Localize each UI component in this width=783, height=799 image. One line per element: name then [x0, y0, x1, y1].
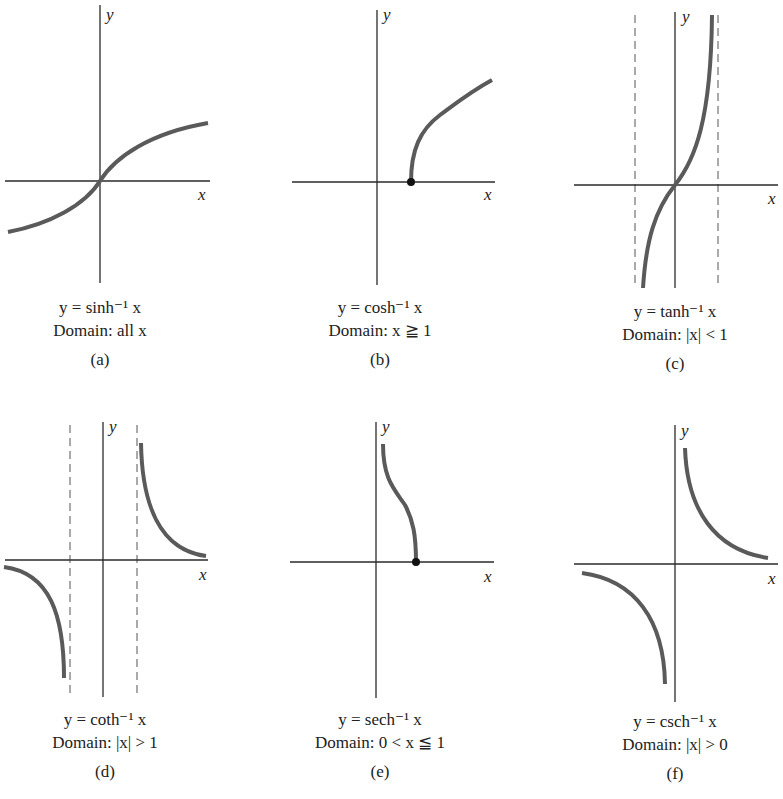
caption-c: y = tanh⁻¹ x Domain: |x| < 1 (c) — [570, 300, 780, 375]
panel-tag: (b) — [270, 348, 490, 371]
panel-tag: (d) — [0, 760, 210, 783]
equation: y = coth⁻¹ x — [0, 708, 210, 731]
panel-c-tanh-inverse: y x y = tanh⁻¹ x Domain: |x| < 1 (c) — [540, 0, 783, 390]
y-axis-label: y — [381, 5, 391, 24]
curve-cosh-inverse — [411, 80, 492, 182]
domain: Domain: 0 < x ≦ 1 — [270, 731, 490, 754]
panel-b-cosh-inverse: y x y = cosh⁻¹ x Domain: x ≧ 1 (b) — [270, 0, 520, 380]
x-axis-label: x — [483, 567, 492, 586]
equation: y = csch⁻¹ x — [570, 710, 780, 733]
x-axis-label: x — [483, 185, 492, 204]
panel-e-sech-inverse: y x y = sech⁻¹ x Domain: 0 < x ≦ 1 (e) — [270, 410, 520, 799]
panel-tag: (f) — [570, 762, 780, 785]
y-axis-label: y — [680, 7, 690, 26]
curve-sech-inverse — [383, 444, 416, 562]
curve-csch-inverse-left — [582, 573, 665, 684]
caption-d: y = coth⁻¹ x Domain: |x| > 1 (d) — [0, 708, 210, 783]
domain: Domain: |x| > 0 — [570, 733, 780, 756]
x-axis-label: x — [198, 565, 207, 584]
x-axis-label: x — [197, 185, 206, 204]
graph-sinh-inverse: y x — [0, 0, 260, 300]
graph-tanh-inverse: y x — [540, 0, 783, 300]
caption-f: y = csch⁻¹ x Domain: |x| > 0 (f) — [570, 710, 780, 785]
y-axis-label: y — [679, 421, 689, 440]
domain: Domain: all x — [0, 319, 200, 342]
x-axis-label: x — [767, 189, 776, 208]
caption-b: y = cosh⁻¹ x Domain: x ≧ 1 (b) — [270, 296, 490, 371]
panel-a-sinh-inverse: y x y = sinh⁻¹ x Domain: all x (a) — [0, 0, 260, 380]
graph-sech-inverse: y x — [270, 410, 520, 710]
graph-coth-inverse: y x — [0, 410, 260, 710]
caption-a: y = sinh⁻¹ x Domain: all x (a) — [0, 296, 200, 371]
equation: y = sinh⁻¹ x — [0, 296, 200, 319]
curve-coth-inverse-left — [4, 567, 64, 678]
equation: y = tanh⁻¹ x — [570, 300, 780, 323]
curve-tanh-inverse — [643, 15, 712, 288]
panel-d-coth-inverse: y x y = coth⁻¹ x Domain: |x| > 1 (d) — [0, 410, 260, 799]
endpoint-marker — [407, 178, 415, 186]
graph-cosh-inverse: y x — [270, 0, 520, 300]
equation: y = cosh⁻¹ x — [270, 296, 490, 319]
graph-csch-inverse: y x — [540, 410, 783, 710]
x-axis-label: x — [767, 569, 776, 588]
domain: Domain: |x| < 1 — [570, 323, 780, 346]
panel-tag: (c) — [570, 352, 780, 375]
caption-e: y = sech⁻¹ x Domain: 0 < x ≦ 1 (e) — [270, 708, 490, 783]
domain: Domain: x ≧ 1 — [270, 319, 490, 342]
curve-coth-inverse-right — [141, 443, 206, 556]
y-axis-label: y — [104, 5, 114, 24]
curve-csch-inverse-right — [685, 448, 768, 558]
panel-tag: (a) — [0, 348, 200, 371]
panel-tag: (e) — [270, 760, 490, 783]
y-axis-label: y — [107, 417, 117, 436]
domain: Domain: |x| > 1 — [0, 731, 210, 754]
panel-f-csch-inverse: y x y = csch⁻¹ x Domain: |x| > 0 (f) — [540, 410, 783, 799]
curve-sinh-inverse — [8, 123, 208, 232]
equation: y = sech⁻¹ x — [270, 708, 490, 731]
endpoint-marker — [412, 558, 420, 566]
y-axis-label: y — [380, 417, 390, 436]
